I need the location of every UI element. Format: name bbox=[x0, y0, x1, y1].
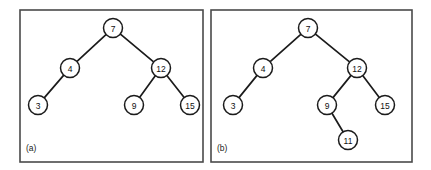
node-value-label: 15 bbox=[380, 101, 390, 111]
tree-node[interactable]: 15 bbox=[376, 96, 395, 115]
panel-caption-a: (a) bbox=[26, 143, 37, 153]
tree-node[interactable]: 15 bbox=[181, 96, 200, 115]
node-value-label: 15 bbox=[185, 101, 195, 111]
node-value-label: 3 bbox=[231, 101, 236, 111]
node-value-label: 11 bbox=[344, 136, 353, 146]
tree-node[interactable]: 3 bbox=[29, 96, 48, 115]
tree-node[interactable]: 4 bbox=[254, 59, 273, 78]
node-value-label: 7 bbox=[111, 24, 116, 34]
binary-search-tree-figure: 74123915(a)7412391511(b) bbox=[0, 0, 431, 170]
tree-node[interactable]: 11 bbox=[339, 131, 358, 150]
tree-node[interactable]: 9 bbox=[125, 96, 144, 115]
tree-node[interactable]: 4 bbox=[61, 59, 80, 78]
node-value-label: 7 bbox=[306, 24, 311, 34]
node-value-label: 3 bbox=[36, 101, 41, 111]
tree-node[interactable]: 7 bbox=[299, 19, 318, 38]
tree-node[interactable]: 7 bbox=[104, 19, 123, 38]
tree-node[interactable]: 3 bbox=[224, 96, 243, 115]
node-value-label: 12 bbox=[352, 64, 362, 74]
node-value-label: 9 bbox=[325, 101, 330, 111]
tree-node[interactable]: 12 bbox=[152, 59, 171, 78]
node-value-label: 9 bbox=[132, 101, 137, 111]
figure-container: 74123915(a)7412391511(b) bbox=[0, 0, 431, 170]
panel-caption-b: (b) bbox=[217, 143, 228, 153]
node-value-label: 4 bbox=[261, 64, 266, 74]
panel-b: 7412391511(b) bbox=[211, 10, 412, 162]
tree-node[interactable]: 9 bbox=[318, 96, 337, 115]
tree-node[interactable]: 12 bbox=[348, 59, 367, 78]
node-value-label: 12 bbox=[156, 64, 166, 74]
panel-a: 74123915(a) bbox=[20, 10, 203, 162]
node-value-label: 4 bbox=[68, 64, 73, 74]
